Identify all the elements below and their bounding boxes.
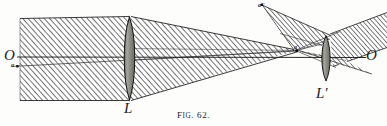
label-point-a: a (11, 62, 14, 68)
figure-caption-text: FIG. 62. (177, 110, 210, 120)
label-object-right: O (366, 48, 377, 63)
figure-diagram-svg (0, 0, 387, 126)
label-lens-L-prime: L' (316, 86, 328, 101)
optical-axis (17, 57, 366, 58)
incident-parallel-beam (20, 17, 129, 101)
optics-figure-62: O O L L' a a' a'' FIG. 62. (0, 0, 387, 126)
label-point-a-prime: a' (294, 44, 299, 50)
label-point-a-double-prime: a'' (258, 2, 264, 8)
figure-caption: FIG. 62. (0, 110, 387, 120)
label-object-left: O (4, 48, 15, 63)
